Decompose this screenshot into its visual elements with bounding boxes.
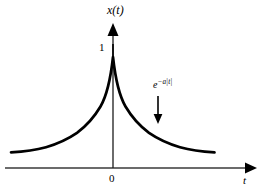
exponential-decay-figure: x(t) t 1 0 e−a|t| [0, 0, 262, 194]
t-axis-arrowhead [245, 163, 257, 174]
curve-annotation-label: e−a|t| [153, 79, 172, 90]
y-tick-label-one: 1 [99, 42, 105, 53]
origin-label: 0 [109, 173, 115, 184]
annotation-arrowhead [154, 114, 163, 124]
y-axis-label: x(t) [107, 4, 124, 16]
annotation-exponent: −a|t| [157, 78, 172, 86]
x-axis-arrowhead [108, 23, 119, 36]
x-axis-label: t [243, 175, 246, 186]
figure-canvas [0, 0, 262, 194]
